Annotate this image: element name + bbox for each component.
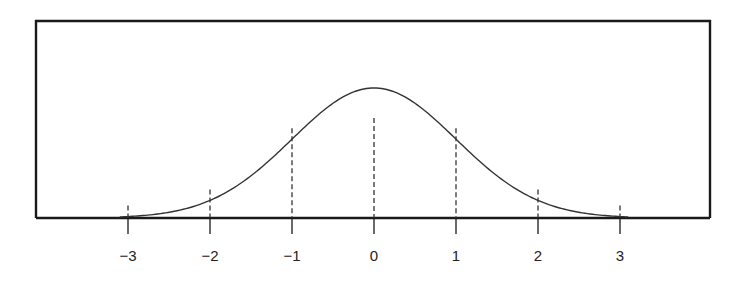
tick-label: 0 <box>370 247 378 264</box>
tick-label: −1 <box>283 247 300 264</box>
normal-distribution-chart: −3−2−10123 <box>0 0 744 285</box>
tick-label: 3 <box>616 247 624 264</box>
tick-label: −3 <box>119 247 136 264</box>
tick-label: 1 <box>452 247 460 264</box>
tick-label: 2 <box>534 247 542 264</box>
plot-frame <box>36 21 710 218</box>
x-axis-tick-labels: −3−2−10123 <box>119 247 624 264</box>
x-axis-ticks <box>128 218 620 234</box>
tick-label: −2 <box>201 247 218 264</box>
